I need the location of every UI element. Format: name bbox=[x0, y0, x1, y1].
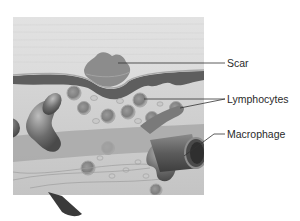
diagram: Scar Lymphocytes Macrophage bbox=[0, 0, 300, 221]
label-macrophage: Macrophage bbox=[227, 129, 285, 140]
label-scar: Scar bbox=[227, 58, 249, 69]
label-lymphocytes: Lymphocytes bbox=[227, 94, 288, 105]
tissue-illustration bbox=[0, 0, 300, 221]
